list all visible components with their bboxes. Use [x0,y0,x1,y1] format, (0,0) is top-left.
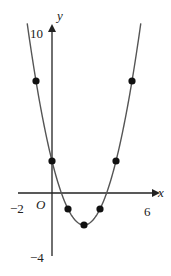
data-point [32,77,39,84]
x-max-tick-label: 6 [144,204,151,219]
data-point [112,157,119,164]
data-point [80,221,87,228]
data-point [64,205,71,212]
data-point [48,157,55,164]
x-min-tick-label: −2 [10,201,24,216]
data-point [96,205,103,212]
y-max-tick-label: 10 [30,26,43,41]
origin-label: O [36,197,46,212]
marked-points [32,77,135,228]
y-min-tick-label: −4 [30,250,44,265]
parabola-figure: y x O −2 6 10 −4 [0,0,171,276]
data-point [128,77,135,84]
plot-area: y x O −2 6 10 −4 [0,0,171,276]
y-axis-label: y [55,8,63,23]
parabola-curve [27,23,141,225]
x-axis-label: x [157,185,164,200]
